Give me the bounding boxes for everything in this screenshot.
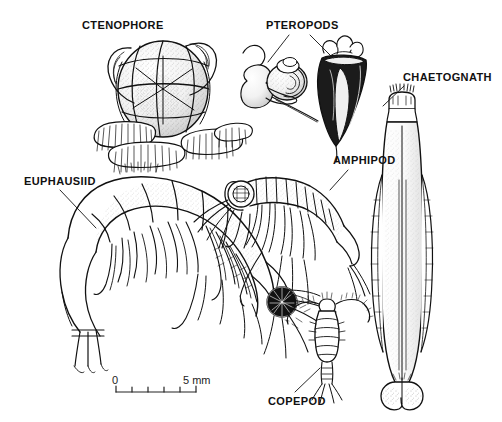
label-pteropods: PTEROPODS: [266, 19, 339, 31]
copepod-drawing: [285, 292, 373, 403]
label-chaetognath: CHAETOGNATH: [403, 71, 492, 83]
leader-amphipod: [330, 170, 348, 190]
pteropod-coiled-drawing: [241, 45, 318, 122]
chaetognath-drawing: [371, 84, 433, 410]
label-euphausiid: EUPHAUSIID: [24, 175, 96, 187]
scale-bar-graphic: [116, 386, 196, 392]
zooplankton-figure: CTENOPHORE PTEROPODS CHAETOGNATH AMPHIPO…: [0, 0, 502, 422]
scale-bar-max-label: 5 mm: [183, 374, 211, 386]
label-amphipod: AMPHIPOD: [333, 154, 395, 166]
scale-bar-min-label: 0: [112, 374, 118, 386]
leader-euphausiid: [60, 190, 96, 228]
ctenophore-drawing: [94, 41, 252, 172]
illustration-canvas: [0, 0, 502, 422]
label-copepod: COPEPOD: [268, 395, 326, 407]
pteropod-conical-drawing: [318, 36, 367, 162]
leader-copepod: [295, 368, 320, 392]
label-ctenophore: CTENOPHORE: [82, 19, 164, 31]
